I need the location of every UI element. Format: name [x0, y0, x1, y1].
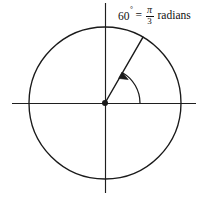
unit-circle-diagram — [0, 0, 203, 199]
unit-circle-figure: 60° = π 3 radians — [0, 0, 203, 199]
origin-point-marker — [102, 100, 108, 106]
terminal-ray — [105, 37, 143, 103]
